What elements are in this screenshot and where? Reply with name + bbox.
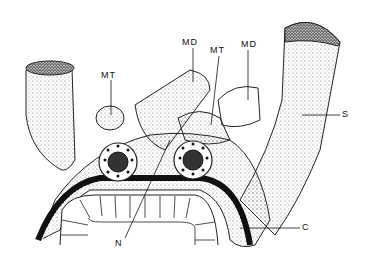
label-n: N	[115, 238, 123, 248]
label-c: C	[302, 222, 310, 232]
tubule-left	[99, 143, 137, 181]
label-md-right: MD	[241, 39, 257, 49]
tubule-right	[174, 141, 212, 179]
label-mt-left: MT	[101, 70, 116, 80]
label-s: S	[342, 109, 349, 119]
label-mt-center: MT	[210, 45, 225, 55]
anatomical-illustration: MT MD MT MD S N C	[0, 0, 369, 266]
label-md-center: MD	[182, 37, 198, 47]
